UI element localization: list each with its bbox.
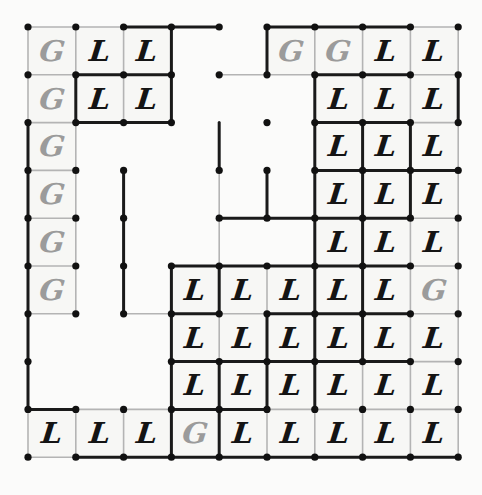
lattice-node	[455, 167, 462, 174]
lattice-node	[263, 215, 270, 222]
grid-cell	[315, 266, 363, 314]
lattice-node	[311, 71, 318, 78]
grid-cell	[410, 123, 458, 171]
grid-cell	[315, 314, 363, 362]
cell-fill-layer	[28, 27, 458, 457]
lattice-node	[263, 23, 270, 30]
grid-cell	[171, 266, 219, 314]
lattice-node	[216, 406, 223, 413]
lattice-node	[24, 71, 31, 78]
lattice-node	[455, 215, 462, 222]
lattice-node	[24, 310, 31, 317]
lattice-node	[24, 406, 31, 413]
lattice-node	[407, 23, 414, 30]
grid-cell	[410, 409, 458, 457]
lattice-node	[455, 310, 462, 317]
lattice-node	[359, 167, 366, 174]
grid-cell	[363, 314, 411, 362]
lattice-node	[311, 454, 318, 461]
grid-cell	[315, 123, 363, 171]
lattice-diagram	[0, 0, 482, 495]
lattice-node	[216, 310, 223, 317]
lattice-node	[263, 406, 270, 413]
grid-cell	[410, 27, 458, 75]
grid-cell	[363, 75, 411, 123]
grid-cell	[219, 266, 267, 314]
lattice-node	[168, 71, 175, 78]
grid-cell	[219, 314, 267, 362]
lattice-node	[72, 119, 79, 126]
lattice-node	[263, 358, 270, 365]
lattice-node	[407, 406, 414, 413]
lattice-node	[311, 262, 318, 269]
grid-cell	[315, 75, 363, 123]
grid-cell	[410, 75, 458, 123]
lattice-node	[455, 358, 462, 365]
lattice-node	[72, 71, 79, 78]
lattice-node	[455, 406, 462, 413]
lattice-node	[168, 406, 175, 413]
lattice-node	[455, 23, 462, 30]
grid-cell	[267, 314, 315, 362]
lattice-node	[120, 310, 127, 317]
grid-cell	[315, 27, 363, 75]
lattice-node	[216, 71, 223, 78]
lattice-node	[120, 262, 127, 269]
lattice-node	[359, 215, 366, 222]
lattice-node	[168, 119, 175, 126]
lattice-node	[24, 23, 31, 30]
lattice-node	[263, 310, 270, 317]
lattice-node	[311, 119, 318, 126]
lattice-node	[263, 454, 270, 461]
grid-cell	[315, 362, 363, 410]
lattice-node	[455, 262, 462, 269]
grid-cell	[171, 362, 219, 410]
lattice-node	[168, 310, 175, 317]
grid-cell	[410, 314, 458, 362]
grid-cell	[124, 27, 172, 75]
lattice-node	[120, 23, 127, 30]
lattice-node	[311, 310, 318, 317]
grid-cell	[124, 75, 172, 123]
lattice-node	[407, 358, 414, 365]
grid-cell	[315, 218, 363, 266]
lattice-node	[72, 406, 79, 413]
lattice-node	[72, 23, 79, 30]
grid-cell	[410, 362, 458, 410]
grid-cell	[363, 170, 411, 218]
grid-cell	[267, 266, 315, 314]
grid-cell	[410, 266, 458, 314]
lattice-node	[311, 215, 318, 222]
lattice-node	[455, 454, 462, 461]
lattice-node	[72, 454, 79, 461]
lattice-node	[24, 454, 31, 461]
lattice-node	[216, 262, 223, 269]
lattice-node	[24, 358, 31, 365]
lattice-node	[216, 454, 223, 461]
lattice-node	[216, 215, 223, 222]
lattice-node	[359, 454, 366, 461]
lattice-node	[407, 454, 414, 461]
lattice-node	[216, 167, 223, 174]
lattice-node	[359, 358, 366, 365]
lattice-node	[311, 167, 318, 174]
grid-cell	[267, 409, 315, 457]
grid-cell	[28, 170, 76, 218]
lattice-node	[168, 358, 175, 365]
grid-cell	[410, 170, 458, 218]
lattice-node	[72, 262, 79, 269]
lattice-node	[311, 23, 318, 30]
lattice-node	[263, 262, 270, 269]
grid-cell	[28, 75, 76, 123]
grid-cell	[28, 27, 76, 75]
grid-cell	[28, 218, 76, 266]
grid-cell	[315, 170, 363, 218]
lattice-node	[407, 310, 414, 317]
grid-cell	[315, 409, 363, 457]
lattice-node	[120, 119, 127, 126]
grid-cell	[124, 409, 172, 457]
lattice-node	[359, 119, 366, 126]
grid-cell	[410, 218, 458, 266]
grid-cell	[171, 314, 219, 362]
lattice-node	[24, 262, 31, 269]
